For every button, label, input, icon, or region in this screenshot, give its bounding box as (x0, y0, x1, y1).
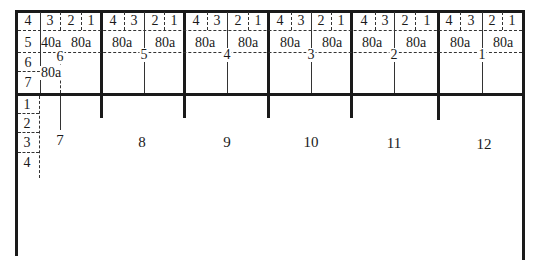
column-label: 9 (222, 135, 232, 149)
lower-left-column-line (39, 96, 40, 178)
column-label: 11 (386, 136, 402, 150)
header-cell: 1 (508, 14, 517, 28)
header-cell: 2 (151, 14, 160, 28)
header-divider (502, 12, 503, 30)
header-cell: 4 (276, 14, 285, 28)
header-cell: 2 (401, 14, 410, 28)
value-cell: 80a (154, 36, 176, 50)
header-divider (460, 12, 461, 30)
value-cell: 80a (279, 36, 301, 50)
column-label: 7 (55, 133, 65, 147)
header-cell: 4 (445, 14, 454, 28)
section-divider (267, 10, 270, 118)
header-cell: 3 (46, 14, 55, 28)
header-row-line (18, 30, 522, 31)
header-cell: 2 (317, 14, 326, 28)
lower-row-line (18, 113, 39, 114)
row-label: 3 (23, 136, 32, 150)
row-label: 1 (23, 98, 32, 112)
header-divider (40, 12, 41, 93)
header-divider (60, 12, 61, 30)
value-cell: 40a (40, 36, 62, 50)
header-cell: 3 (213, 14, 222, 28)
row-line-6 (18, 71, 40, 72)
value-row-line (18, 52, 522, 53)
header-divider (164, 12, 165, 30)
header-cell: 1 (170, 14, 179, 28)
section-number: 6 (56, 50, 65, 64)
lower-row-line (18, 132, 39, 133)
header-cell: 4 (109, 14, 118, 28)
header-divider (291, 12, 292, 30)
value-cell: 80a (237, 36, 259, 50)
header-divider (81, 12, 82, 30)
section-number: 4 (223, 48, 232, 62)
column-label: 10 (303, 135, 320, 149)
value-cell: 80a (70, 36, 92, 50)
section-divider (183, 10, 186, 118)
header-cell: 3 (381, 14, 390, 28)
value-cell: 80a (321, 36, 343, 50)
section-divider (437, 10, 440, 120)
section-number: 3 (307, 48, 316, 62)
header-divider (248, 12, 249, 30)
value-cell: 80a (449, 36, 471, 50)
main-divider (15, 93, 525, 96)
lower-row-line (18, 152, 39, 153)
header-divider (207, 12, 208, 30)
header-cell: 4 (24, 14, 33, 28)
header-cell: 4 (360, 14, 369, 28)
header-cell: 1 (87, 14, 96, 28)
row-label: 7 (24, 76, 33, 90)
column-7-marker (60, 96, 61, 130)
header-cell: 4 (192, 14, 201, 28)
row-label: 6 (24, 56, 33, 70)
value-cell: 80a (40, 66, 62, 80)
header-cell: 3 (130, 14, 139, 28)
header-divider (415, 12, 416, 30)
value-cell: 80a (492, 36, 514, 50)
value-cell: 80a (405, 36, 427, 50)
value-cell: 80a (361, 36, 383, 50)
row-label: 5 (24, 36, 33, 50)
header-cell: 3 (297, 14, 306, 28)
header-cell: 1 (423, 14, 432, 28)
value-cell: 80a (111, 36, 133, 50)
section-number: 1 (478, 48, 487, 62)
section-number: 2 (390, 48, 399, 62)
section-number: 5 (140, 48, 149, 62)
section-divider (350, 10, 353, 118)
section-divider (100, 10, 103, 118)
right-border (522, 10, 525, 260)
header-divider (375, 12, 376, 30)
left-border (15, 10, 18, 256)
header-divider (331, 12, 332, 30)
header-cell: 2 (234, 14, 243, 28)
header-cell: 1 (337, 14, 346, 28)
column-label: 8 (137, 135, 147, 149)
header-cell: 2 (67, 14, 76, 28)
header-cell: 2 (488, 14, 497, 28)
row-label: 2 (23, 117, 32, 131)
header-divider (124, 12, 125, 30)
header-cell: 1 (254, 14, 263, 28)
row-label: 4 (23, 156, 32, 170)
value-cell: 80a (194, 36, 216, 50)
header-cell: 3 (467, 14, 476, 28)
column-label: 12 (476, 137, 493, 151)
